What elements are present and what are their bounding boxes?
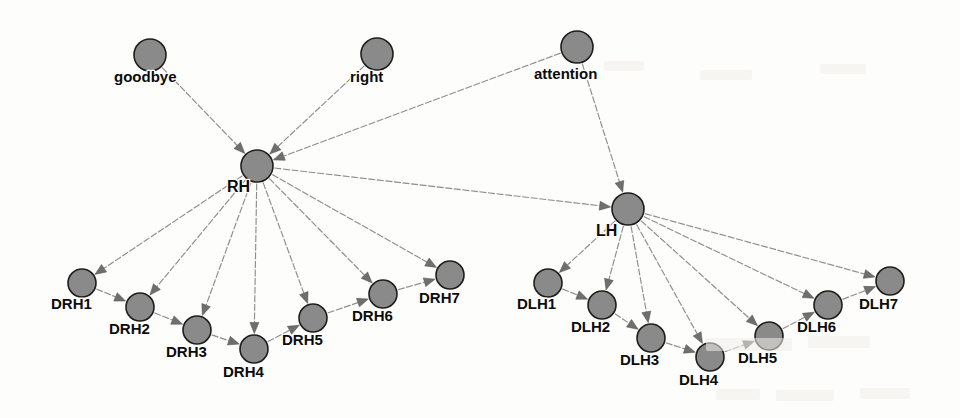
node-label: DRH2 — [109, 320, 150, 337]
scan-artifact — [604, 61, 644, 71]
edge-RH-to-DRH5 — [263, 182, 308, 303]
node-circle[interactable] — [299, 304, 327, 332]
node-label: DRH7 — [419, 289, 460, 306]
graph-node-dlh1[interactable]: DLH1 — [517, 269, 562, 312]
node-label: LH — [596, 222, 617, 239]
edge-attention-to-RH — [273, 53, 560, 160]
node-label: DLH5 — [738, 349, 777, 366]
node-label: DRH1 — [51, 295, 92, 312]
arrowhead-icon — [356, 298, 368, 307]
edge-DLH2-to-DLH3 — [615, 314, 638, 330]
arrowhead-icon — [150, 284, 160, 295]
graph-node-attention[interactable]: attention — [534, 31, 597, 82]
node-circle[interactable] — [534, 269, 562, 297]
arrowhead-icon — [202, 304, 210, 316]
node-label: DRH4 — [223, 363, 264, 380]
scan-artifact — [706, 338, 792, 351]
arrowhead-icon — [227, 336, 239, 345]
arrowhead-icon — [802, 289, 814, 298]
edge-RH-to-DRH4 — [250, 183, 259, 333]
node-circle[interactable] — [183, 316, 211, 344]
scan-artifact — [700, 70, 752, 80]
node-label: DRH3 — [166, 343, 207, 360]
node-circle[interactable] — [369, 280, 397, 308]
arrowhead-icon — [425, 258, 437, 267]
node-circle[interactable] — [126, 293, 154, 321]
node-circle[interactable] — [240, 335, 268, 363]
graph-node-goodbye[interactable]: goodbye — [114, 39, 177, 85]
arrowhead-icon — [273, 152, 285, 160]
arrowhead-icon — [423, 278, 435, 287]
graph-node-right[interactable]: right — [350, 38, 393, 85]
node-label: DRH6 — [352, 307, 393, 324]
scan-artifact — [776, 390, 834, 401]
arrowhead-icon — [95, 265, 107, 275]
node-circle[interactable] — [134, 39, 166, 71]
arrowhead-icon — [642, 311, 651, 323]
edge-DLH3-to-DLH4 — [666, 343, 695, 353]
node-circle[interactable] — [588, 291, 616, 319]
edge-RH-to-DRH1 — [95, 176, 243, 275]
arrowhead-icon — [863, 270, 875, 279]
node-circle[interactable] — [814, 291, 842, 319]
node-circle[interactable] — [68, 269, 96, 297]
node-circle[interactable] — [361, 38, 393, 70]
diagram-canvas: goodbyerightattentionRHLHDRH1DRH2DRH3DRH… — [0, 0, 960, 418]
edge-LH-to-DLH5 — [641, 221, 757, 326]
arrowhead-icon — [250, 322, 259, 333]
node-label: DLH2 — [571, 318, 610, 335]
edge-DLH1-to-DLH2 — [562, 289, 587, 299]
node-circle[interactable] — [561, 31, 593, 63]
edge-DRH2-to-DRH3 — [154, 313, 182, 324]
arrowhead-icon — [171, 316, 183, 324]
arrowhead-icon — [683, 345, 695, 354]
arrowhead-icon — [693, 332, 702, 344]
edge-DRH6-to-DRH7 — [398, 278, 435, 290]
scan-artifact — [716, 389, 760, 400]
arrowhead-icon — [605, 278, 614, 290]
node-label: DLH6 — [797, 318, 836, 335]
graph-node-lh[interactable]: LH — [596, 193, 644, 239]
arrowhead-icon — [114, 293, 126, 301]
edge-layer — [95, 53, 876, 353]
node-label: right — [350, 68, 383, 85]
node-label: DLH4 — [679, 371, 719, 388]
edge-RH-to-DRH7 — [272, 175, 436, 268]
arrowhead-icon — [599, 201, 610, 210]
node-label: DRH5 — [282, 331, 323, 348]
node-circle[interactable] — [436, 261, 464, 289]
node-circle[interactable] — [612, 193, 644, 225]
scan-artifact — [820, 64, 866, 74]
arrowhead-icon — [627, 319, 639, 329]
edge-RH-to-DRH6 — [269, 178, 372, 282]
node-circle[interactable] — [637, 324, 665, 352]
node-label: attention — [534, 65, 597, 82]
graph-node-drh1[interactable]: DRH1 — [51, 269, 96, 312]
arrowhead-icon — [576, 291, 588, 299]
edge-LH-to-DLH3 — [631, 226, 651, 323]
node-label: DLH7 — [859, 295, 898, 312]
node-label: DLH1 — [517, 295, 556, 312]
scan-artifact — [808, 336, 870, 348]
node-circle[interactable] — [876, 267, 904, 295]
scan-artifact — [860, 388, 910, 399]
graph-svg: goodbyerightattentionRHLHDRH1DRH2DRH3DRH… — [0, 0, 960, 418]
arrowhead-icon — [615, 180, 624, 192]
edge-LH-to-DLH7 — [645, 214, 875, 279]
node-label: DLH3 — [620, 351, 659, 368]
graph-node-rh[interactable]: RH — [227, 150, 273, 195]
edge-attention-to-LH — [582, 64, 623, 193]
arrowhead-icon — [864, 286, 876, 294]
node-label: RH — [227, 178, 250, 195]
edge-DRH3-to-DRH4 — [212, 335, 240, 345]
node-label: goodbye — [114, 68, 177, 85]
edge-LH-to-DLH6 — [644, 217, 814, 299]
edge-RH-to-LH — [274, 168, 610, 210]
arrowhead-icon — [300, 292, 308, 304]
edge-DRH1-to-DRH2 — [96, 289, 125, 301]
graph-node-dlh3[interactable]: DLH3 — [620, 324, 665, 368]
